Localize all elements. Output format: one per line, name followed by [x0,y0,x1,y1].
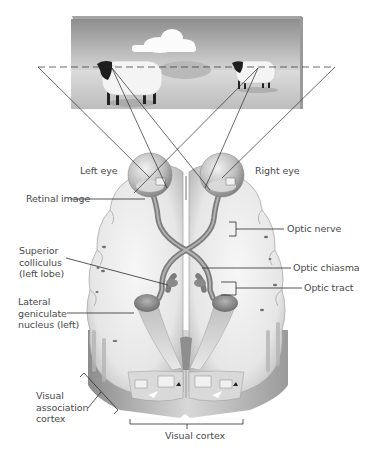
label-optic-chiasma: Optic chiasma [293,262,360,274]
label-line: (left lobe) [19,268,64,280]
superior-colliculus-left [166,279,178,287]
left-eyeball [128,153,172,197]
lateral-geniculate-left [134,294,160,312]
hill [159,61,211,79]
label-visual-cortex: Visual cortex [165,430,225,442]
label-line: association [36,402,88,414]
label-line: colliculus [19,257,64,269]
label-superior-colliculus: Superior colliculus (left lobe) [19,245,64,280]
brain [87,153,288,418]
label-optic-nerve: Optic nerve [287,223,341,235]
label-line: cortex [36,413,88,425]
visual-pathway-diagram: Left eye Right eye Retinal image Optic n… [0,0,372,450]
label-line: Lateral [18,296,79,308]
label-retinal-image: Retinal image [26,193,90,205]
label-optic-tract: Optic tract [304,282,353,294]
label-line: nucleus (left) [18,319,79,331]
sheep-painting [71,16,303,109]
label-line: geniculate [18,308,79,320]
right-eyeball [200,153,244,197]
label-right-eye: Right eye [255,165,299,177]
lateral-geniculate-right [212,294,238,312]
superior-colliculus-right [194,279,206,287]
label-left-eye: Left eye [80,165,117,177]
label-visual-association-cortex: Visual association cortex [36,390,88,425]
label-line: Visual [36,390,88,402]
right-sheep [232,61,278,93]
label-lateral-geniculate-nucleus: Lateral geniculate nucleus (left) [18,296,79,331]
label-line: Superior [19,245,64,257]
